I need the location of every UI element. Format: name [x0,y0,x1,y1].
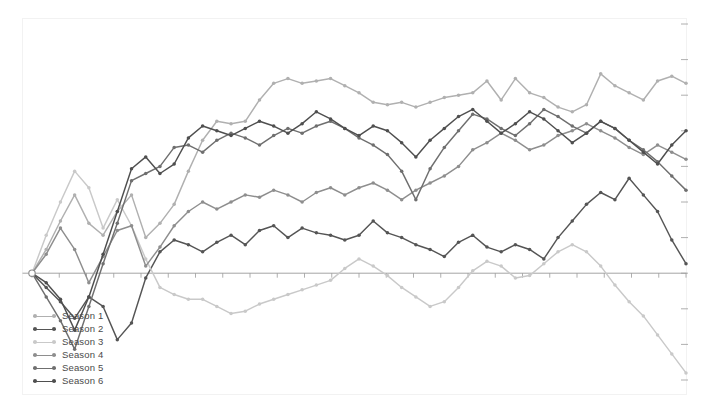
data-point [585,203,589,207]
data-point [400,101,404,105]
data-point [371,101,375,105]
data-point [158,172,162,176]
series-season-3 [30,169,688,374]
data-point [670,143,674,147]
data-point [244,120,248,124]
data-point [101,305,105,309]
data-point [400,169,404,173]
data-series-layer [30,72,688,375]
data-point [116,338,120,342]
data-point [528,248,532,252]
data-point [556,105,560,109]
legend-item-season-1[interactable]: Season 1 [33,310,103,322]
data-point [244,243,248,247]
data-point [172,146,176,150]
data-point [130,321,134,325]
legend-item-season-6[interactable]: Season 6 [33,375,103,387]
legend-item-season-2[interactable]: Season 2 [33,323,103,335]
data-point [272,134,276,138]
data-point [542,117,546,121]
data-point [613,127,617,131]
data-point [471,233,475,237]
data-point [514,122,518,126]
data-point [315,79,319,83]
legend-swatch-season-3 [33,338,56,346]
data-point [158,245,162,249]
data-point [215,207,219,211]
data-point [400,141,404,145]
data-point [684,371,688,375]
data-point [599,264,603,268]
data-point [471,148,475,152]
data-point [627,146,631,150]
data-point [428,139,432,143]
data-point [528,122,532,126]
legend-swatch-season-6 [33,377,56,385]
data-point [144,264,148,268]
data-point [443,96,447,100]
data-point [414,295,418,299]
data-point [414,198,418,202]
data-point [684,262,688,266]
data-point [215,305,219,309]
data-point [400,236,404,240]
data-point [499,131,503,135]
data-point [443,255,447,259]
data-point [73,169,77,173]
data-point [229,200,233,204]
data-point [471,269,475,273]
data-point [599,191,603,195]
plot-area [0,0,709,416]
data-point [684,188,688,192]
data-point [528,274,532,278]
data-point [172,162,176,166]
data-point [187,210,191,214]
data-point [300,288,304,292]
data-point [499,264,503,268]
data-point [172,203,176,207]
data-point [187,136,191,140]
data-point [144,155,148,159]
data-point [101,233,105,237]
legend-swatch-season-1 [33,312,56,320]
data-point [87,281,91,285]
data-point [428,305,432,309]
data-point [386,274,390,278]
data-point [258,196,262,200]
data-point [627,91,631,95]
legend-item-season-4[interactable]: Season 4 [33,349,103,361]
data-point [499,250,503,254]
data-point [386,103,390,107]
data-point [585,122,589,126]
data-point [528,110,532,114]
data-point [158,286,162,290]
data-point [499,98,503,102]
data-point [201,139,205,143]
data-point [315,283,319,287]
data-point [201,200,205,204]
data-point [116,210,120,214]
data-point [656,79,660,83]
data-point [556,134,560,138]
data-point [272,224,276,228]
data-point [59,219,63,223]
data-point [656,143,660,147]
legend-label-season-1: Season 1 [62,310,103,322]
data-point [343,193,347,197]
data-point [414,105,418,109]
data-point [613,198,617,202]
legend-label-season-6: Season 6 [62,375,103,387]
data-point [514,276,518,280]
data-point [258,120,262,124]
data-point [44,281,48,285]
data-point [286,236,290,240]
legend-item-season-3[interactable]: Season 3 [33,336,103,348]
legend-item-season-5[interactable]: Season 5 [33,362,103,374]
data-point [73,193,77,197]
data-point [656,210,660,214]
data-point [542,257,546,261]
data-point [329,186,333,190]
data-point [528,148,532,152]
data-point [272,298,276,302]
data-point [73,248,77,252]
